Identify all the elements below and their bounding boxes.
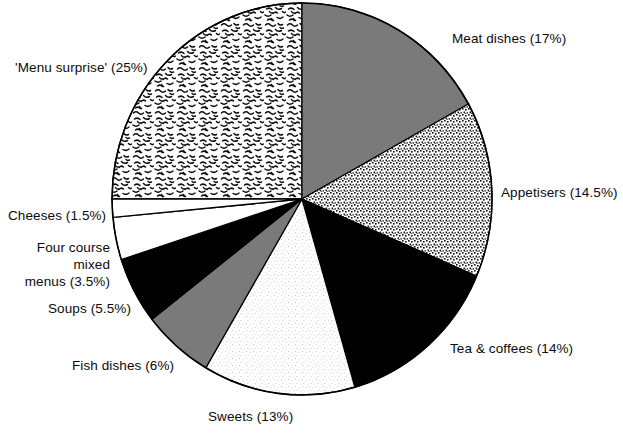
pie-label-menu-surprise: 'Menu surprise' (25%)	[15, 59, 148, 76]
pie-label-meat-dishes: Meat dishes (17%)	[452, 30, 566, 47]
pie-label-fish-dishes: Fish dishes (6%)	[72, 357, 174, 374]
pie-label-soups: Soups (5.5%)	[48, 300, 131, 317]
pie-label-four-course-line-1: Four course mixed	[37, 240, 110, 272]
pie-chart: Meat dishes (17%) Appetisers (14.5%) Tea…	[0, 0, 623, 433]
pie-label-cheeses: Cheeses (1.5%)	[8, 207, 106, 224]
pie-label-four-course-line-2: menus (3.5%)	[25, 274, 110, 289]
pie-label-four-course-mixed-menus: Four course mixedmenus (3.5%)	[0, 239, 110, 290]
pie-slice-menu-surprise[interactable]	[112, 3, 302, 199]
pie-label-appetisers: Appetisers (14.5%)	[501, 184, 618, 201]
pie-label-tea-and-coffees: Tea & coffees (14%)	[450, 340, 573, 357]
pie-label-sweets: Sweets (13%)	[208, 408, 293, 425]
